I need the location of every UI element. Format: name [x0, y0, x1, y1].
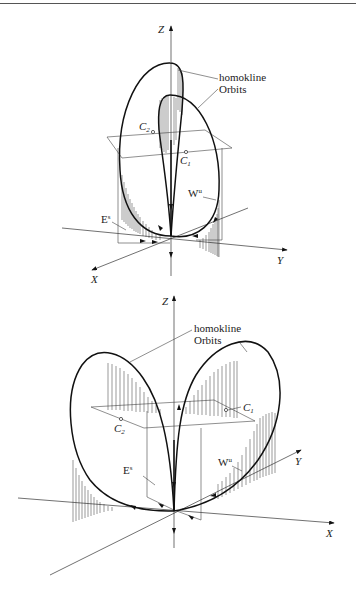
equilibrium-c2: [119, 417, 122, 420]
c2-label: C2: [139, 120, 150, 134]
c2-label: C2: [114, 422, 125, 436]
es-label: Es: [101, 213, 111, 225]
orbits-label-line2: Orbits: [194, 334, 222, 346]
z-axis-label: Z: [162, 295, 169, 307]
x-axis-label: X: [90, 273, 99, 285]
orbits-leader-left: [130, 330, 192, 362]
c1-label: C1: [180, 154, 191, 168]
z-axis-label: Z: [158, 23, 165, 35]
orbits-leader-right: [240, 343, 247, 352]
wu-leader: [232, 466, 242, 471]
flow-arrows: [140, 204, 218, 258]
orbits-label-line1: homokline: [219, 71, 266, 83]
wu-label: Wu: [188, 187, 202, 199]
orbits-leader-1: [178, 70, 218, 79]
y-axis: [62, 228, 287, 250]
equilibrium-c1: [224, 408, 227, 411]
c1-label: C1: [243, 401, 254, 415]
y-axis-label: Y: [295, 455, 303, 467]
homoclinic-orbit-right: [174, 342, 280, 511]
manifold-hatching-left-outer: [73, 460, 112, 522]
manifold-hatching-left-upper: [108, 363, 160, 414]
wu-label: Wu: [218, 456, 232, 468]
section-plane: [107, 130, 232, 158]
es-label: Es: [123, 464, 133, 476]
diagram-bottom: Z X Y: [0, 290, 356, 592]
orbits-label-line2: Orbits: [219, 83, 247, 95]
flow-arrows: [130, 404, 216, 534]
orbits-label-line1: homokline: [194, 322, 241, 334]
es-leader: [112, 222, 126, 230]
homoclinic-orbit-outer: [120, 63, 184, 236]
x-axis-label: X: [325, 527, 334, 539]
orbits-leader-2: [198, 89, 218, 108]
es-leader: [143, 476, 155, 485]
equilibrium-c2: [151, 130, 154, 133]
wu-leader: [203, 197, 216, 200]
diagram-top: Z Y X: [0, 0, 356, 290]
y-axis-label: Y: [277, 254, 285, 266]
